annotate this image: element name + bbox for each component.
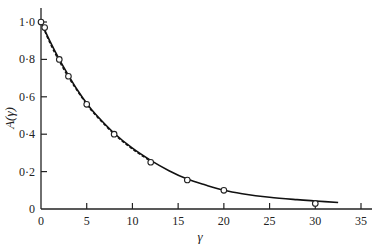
- fitted-curve-line: [41, 22, 338, 202]
- x-tick-label: 30: [309, 214, 321, 228]
- y-tick-label: 1·0: [19, 15, 35, 29]
- x-tick-label: 20: [218, 214, 230, 228]
- y-tick-label: 0: [29, 202, 35, 216]
- y-tick-label: 0·8: [19, 52, 35, 66]
- x-tick-label: 10: [126, 214, 138, 228]
- x-axis-title: γ: [197, 229, 203, 244]
- data-point-marker: [148, 159, 154, 165]
- x-tick-label: 0: [38, 214, 44, 228]
- data-point-marker: [312, 201, 318, 207]
- data-point-marker: [66, 73, 72, 79]
- y-tick-label: 0·4: [19, 127, 35, 141]
- chart: 0510152025303500·20·40·60·81·0 γ A(γ): [0, 0, 381, 248]
- x-tick-label: 35: [355, 214, 367, 228]
- x-tick-label: 5: [84, 214, 90, 228]
- x-tick-label: 15: [172, 214, 184, 228]
- y-axis-title: A(γ): [2, 107, 17, 130]
- x-tick-label: 25: [264, 214, 276, 228]
- data-point-marker: [38, 19, 44, 25]
- data-point-marker: [84, 101, 90, 107]
- data-point-marker: [111, 131, 117, 137]
- y-tick-label: 0·6: [19, 90, 35, 104]
- plot-area: [38, 19, 338, 206]
- data-point-marker: [221, 188, 227, 194]
- data-point-marker: [42, 25, 48, 31]
- dashed-curve-line: [41, 22, 151, 161]
- data-point-marker: [184, 177, 190, 183]
- axes: 0510152025303500·20·40·60·81·0: [19, 8, 372, 228]
- y-tick-label: 0·2: [19, 165, 35, 179]
- data-point-marker: [56, 57, 62, 63]
